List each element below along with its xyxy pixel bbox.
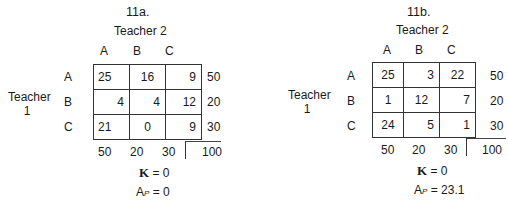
table-label: 11b. (407, 5, 430, 19)
row-total-b: 20 (207, 95, 220, 109)
totals-divider-vertical (185, 141, 186, 159)
col-label-c: C (447, 43, 456, 57)
totals-divider-vertical (466, 138, 467, 156)
kappa-label: K (417, 163, 427, 178)
row-header-line2: 1 (8, 104, 46, 118)
totals-divider-horizontal (185, 141, 221, 142)
table-row: 25 3 22 (373, 63, 476, 88)
ap-label: A (136, 185, 144, 199)
cell: 4 (130, 90, 166, 115)
cell: 1 (440, 113, 476, 138)
col-label-b: B (133, 44, 141, 58)
ap-subscript: P (422, 187, 427, 196)
grand-total: 100 (482, 143, 502, 157)
row-label-a: A (64, 70, 72, 84)
col-label-a: A (383, 43, 391, 57)
row-label-c: C (347, 119, 356, 133)
col-label-a: A (100, 44, 108, 58)
table-row: 4 4 12 (94, 90, 202, 115)
cell: 9 (166, 115, 202, 140)
totals-divider-horizontal (466, 138, 506, 139)
ap-label: A (414, 183, 422, 197)
row-total-c: 30 (207, 120, 220, 134)
table-11a: 11a. Teacher 2 A B C Teacher 1 A B C 25 … (0, 0, 254, 206)
col-total-c: 30 (444, 143, 457, 157)
cell: 0 (130, 115, 166, 140)
row-header: Teacher 1 (8, 90, 46, 118)
ap-statistic: AP = 0 (136, 185, 170, 199)
cell: 25 (373, 63, 404, 88)
cell: 7 (440, 88, 476, 113)
row-header-line2: 1 (288, 102, 326, 116)
row-header: Teacher 1 (288, 88, 326, 116)
table-row: 24 5 1 (373, 113, 476, 138)
table-row: 1 12 7 (373, 88, 476, 113)
col-label-b: B (415, 43, 423, 57)
cell: 24 (373, 113, 404, 138)
cell: 1 (373, 88, 404, 113)
grand-total: 100 (202, 145, 222, 159)
table-label: 11a. (126, 5, 149, 19)
cell: 3 (404, 63, 440, 88)
ap-value: = 0 (153, 185, 170, 199)
col-total-b: 20 (412, 143, 425, 157)
contingency-grid: 25 16 9 4 4 12 21 0 9 (93, 64, 202, 140)
col-total-b: 20 (130, 145, 143, 159)
cell: 25 (94, 65, 130, 90)
row-label-a: A (347, 69, 355, 83)
cell: 4 (94, 90, 130, 115)
cell: 12 (166, 90, 202, 115)
row-total-a: 50 (490, 69, 503, 83)
kappa-label: K (139, 165, 149, 180)
table-11b: 11b. Teacher 2 A B C Teacher 1 A B C 25 … (254, 0, 508, 206)
cell: 22 (440, 63, 476, 88)
cell: 12 (404, 88, 440, 113)
contingency-grid: 25 3 22 1 12 7 24 5 1 (372, 62, 476, 138)
kappa-value: = 0 (152, 166, 169, 180)
row-header-line1: Teacher (288, 88, 326, 102)
row-label-c: C (64, 120, 73, 134)
table-row: 21 0 9 (94, 115, 202, 140)
kappa-value: = 0 (430, 164, 447, 178)
col-total-c: 30 (162, 145, 175, 159)
row-total-a: 50 (207, 70, 220, 84)
row-label-b: B (64, 95, 72, 109)
column-header: Teacher 2 (396, 23, 449, 37)
row-header-line1: Teacher (8, 90, 46, 104)
cell: 5 (404, 113, 440, 138)
ap-statistic: AP = 23.1 (414, 183, 464, 197)
kappa-statistic: K = 0 (417, 163, 447, 179)
ap-value: = 23.1 (431, 183, 465, 197)
ap-subscript: P (144, 189, 149, 198)
column-header: Teacher 2 (114, 24, 167, 38)
cell: 16 (130, 65, 166, 90)
col-total-a: 50 (98, 145, 111, 159)
kappa-statistic: K = 0 (139, 165, 169, 181)
col-label-c: C (165, 44, 174, 58)
cell: 9 (166, 65, 202, 90)
cell: 21 (94, 115, 130, 140)
row-total-c: 30 (490, 119, 503, 133)
row-total-b: 20 (490, 94, 503, 108)
table-row: 25 16 9 (94, 65, 202, 90)
row-label-b: B (347, 94, 355, 108)
col-total-a: 50 (381, 143, 394, 157)
